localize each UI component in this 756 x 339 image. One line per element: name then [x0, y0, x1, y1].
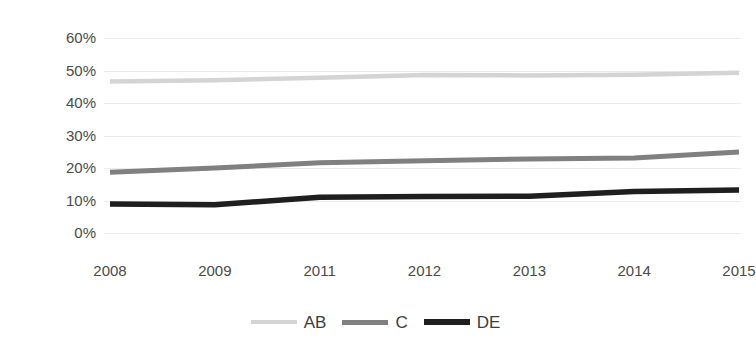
x-axis-tick-label: 2009 [198, 262, 231, 280]
legend-label: DE [477, 314, 501, 331]
y-axis-tick-label: 50% [40, 63, 96, 78]
x-axis: 2008200920112012201320142015 [104, 262, 741, 284]
chart-legend: ABCDE [0, 308, 751, 336]
plot-area [104, 38, 741, 233]
y-axis-tick-label: 20% [40, 160, 96, 175]
x-axis-tick-label: 2015 [722, 262, 755, 280]
x-axis-tick-label: 2008 [93, 262, 126, 280]
y-axis-tick-label: 0% [40, 225, 96, 240]
y-axis: 60%50%40%30%20%10%0% [0, 38, 96, 233]
legend-item-ab[interactable]: AB [251, 314, 327, 331]
chart-title [0, 0, 751, 18]
legend-item-de[interactable]: DE [424, 314, 501, 331]
legend-line-swatch-icon [251, 320, 297, 324]
gridline [104, 233, 741, 234]
legend-label: AB [304, 314, 327, 331]
series-lines [104, 38, 741, 233]
legend-label: C [395, 314, 407, 331]
y-axis-tick-label: 30% [40, 128, 96, 143]
y-axis-tick-label: 10% [40, 193, 96, 208]
series-line-c [110, 152, 739, 172]
y-axis-tick-label: 40% [40, 95, 96, 110]
x-axis-tick-label: 2013 [513, 262, 546, 280]
x-axis-tick-label: 2011 [304, 262, 336, 280]
series-line-de [110, 190, 739, 205]
x-axis-tick-label: 2012 [408, 262, 441, 280]
legend-line-swatch-icon [342, 320, 388, 325]
y-axis-tick-label: 60% [40, 30, 96, 45]
series-line-ab [110, 73, 739, 82]
x-axis-tick-label: 2014 [617, 262, 650, 280]
legend-item-c[interactable]: C [342, 314, 407, 331]
legend-line-swatch-icon [424, 319, 470, 325]
